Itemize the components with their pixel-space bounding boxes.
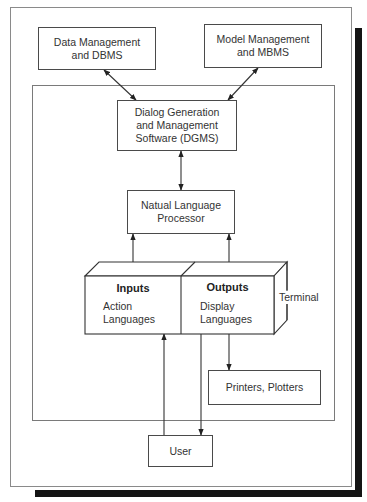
- terminal-label: Terminal: [278, 291, 320, 304]
- dgms-box: Dialog Generation and Management Softwar…: [117, 100, 237, 151]
- dgms-line1: Dialog Generation: [135, 106, 220, 119]
- arrow-model-dgms: [228, 68, 258, 100]
- connectors: [0, 0, 367, 502]
- outputs-title: Outputs: [181, 281, 274, 294]
- inputs-title: Inputs: [85, 282, 181, 295]
- data-management-box: Data Management and DBMS: [38, 27, 156, 70]
- inputs-line2: Languages: [103, 313, 155, 326]
- printers-plotters-box: Printers, Plotters: [208, 370, 321, 405]
- user-box: User: [148, 435, 213, 467]
- model-management-box: Model Management and MBMS: [204, 24, 322, 68]
- data-management-line1: Data Management: [54, 36, 140, 49]
- inputs-line1: Action: [103, 300, 132, 313]
- nlp-line1: Natual Language: [141, 199, 221, 212]
- arrow-data-dgms: [104, 70, 136, 100]
- dgms-line2: and Management: [136, 119, 218, 132]
- outputs-line2: Languages: [200, 313, 252, 326]
- nlp-line2: Processor: [157, 212, 204, 225]
- model-management-line2: and MBMS: [237, 46, 289, 59]
- printers-plotters-label: Printers, Plotters: [226, 381, 304, 394]
- outputs-line1: Display: [200, 300, 234, 313]
- nlp-box: Natual Language Processor: [127, 190, 235, 234]
- user-label: User: [169, 445, 191, 458]
- dgms-line3: Software (DGMS): [136, 132, 219, 145]
- model-management-line1: Model Management: [217, 33, 310, 46]
- data-management-line2: and DBMS: [72, 49, 123, 62]
